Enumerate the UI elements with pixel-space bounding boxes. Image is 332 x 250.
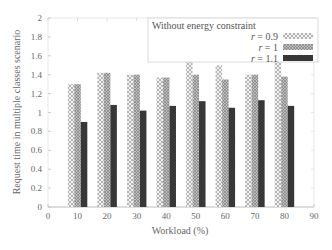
bar — [258, 100, 265, 207]
x-tick-label: 70 — [250, 211, 260, 221]
y-tick-label: 1 — [38, 108, 43, 118]
y-tick-label: 0.2 — [31, 183, 42, 193]
bar — [74, 84, 81, 207]
x-tick-label: 50 — [191, 211, 201, 221]
y-tick-label: 0.4 — [31, 164, 43, 174]
bar — [252, 75, 259, 207]
y-tick-label: 0.6 — [31, 145, 43, 155]
bar — [275, 56, 282, 207]
y-tick-label: 0 — [38, 202, 43, 212]
y-tick-label: 2 — [38, 13, 43, 23]
x-axis-title: Workload (%) — [152, 225, 209, 237]
x-tick-label: 60 — [221, 211, 231, 221]
bar — [245, 75, 252, 207]
bar — [81, 122, 88, 207]
y-tick-label: 1.2 — [31, 89, 42, 99]
x-tick-label: 0 — [46, 211, 51, 221]
bar — [229, 108, 236, 207]
legend-swatch — [283, 44, 313, 50]
bar — [156, 78, 163, 207]
bar-series — [68, 56, 294, 207]
bar — [193, 75, 200, 207]
bar — [68, 84, 75, 207]
bar — [127, 75, 133, 207]
y-tick-label: 1.6 — [31, 51, 43, 61]
bar — [163, 78, 170, 207]
y-tick-label: 1.8 — [31, 32, 43, 42]
bar — [222, 79, 229, 207]
bar — [110, 105, 117, 207]
y-tick-label: 0.8 — [31, 126, 43, 136]
x-tick-label: 40 — [162, 211, 172, 221]
y-axis-title: Request time in multiple classes scenari… — [11, 30, 22, 195]
legend-swatch — [283, 55, 313, 61]
bar — [97, 73, 104, 207]
bar — [199, 101, 206, 207]
legend-title: Without energy constraint — [152, 20, 256, 31]
legend-label: r = 1.1 — [251, 53, 278, 64]
bar — [140, 111, 147, 207]
x-tick-label: 20 — [103, 211, 113, 221]
bar — [133, 75, 140, 207]
bar — [216, 65, 223, 207]
bar — [281, 77, 288, 207]
x-tick-label: 80 — [280, 211, 290, 221]
legend-swatch — [283, 33, 313, 39]
x-tick-label: 90 — [310, 211, 320, 221]
x-tick-label: 30 — [132, 211, 142, 221]
x-tick-label: 10 — [73, 211, 83, 221]
legend-label: r = 0.9 — [251, 31, 278, 42]
legend-label: r = 1 — [258, 42, 278, 53]
bar — [104, 73, 111, 207]
bar — [169, 106, 176, 207]
bar — [288, 106, 295, 207]
legend: Without energy constraint r = 0.9r = 1r … — [148, 18, 318, 64]
bar — [186, 59, 193, 207]
y-tick-label: 1.4 — [31, 70, 43, 80]
bar-chart: 00.20.40.60.811.21.41.61.82 010203040506… — [0, 0, 332, 250]
